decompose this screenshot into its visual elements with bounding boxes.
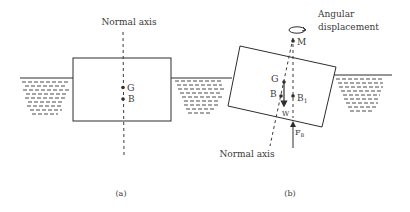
- label-b1: B1: [297, 93, 307, 104]
- normal-axis-label: Normal axis: [101, 17, 157, 27]
- center-of-buoyancy-point: [121, 97, 125, 101]
- original-buoyancy-point: [279, 94, 283, 98]
- shifted-buoyancy-point: [291, 94, 295, 98]
- rotation-arrow-icon: [289, 27, 306, 33]
- label-g-tilted: G: [271, 73, 279, 84]
- label-weight: W: [282, 110, 290, 118]
- panel-b: Angular displacement M G B B1 W FB Norma…: [219, 9, 392, 198]
- label-b1-sub: 1: [304, 97, 308, 104]
- caption-a: (a): [115, 189, 126, 198]
- label-buoyancy-sub: B: [301, 132, 305, 138]
- label-g: G: [127, 82, 135, 93]
- label-b-tilted: B: [270, 89, 277, 99]
- stability-diagram: G B Normal axis (a): [0, 0, 410, 212]
- water-hatch-right: [336, 79, 384, 111]
- metacenter-point: [291, 39, 295, 43]
- label-buoyancy: FB: [295, 128, 305, 138]
- center-of-gravity-point: [121, 86, 125, 90]
- tilted-normal-axis-label: Normal axis: [219, 149, 275, 159]
- angular-label-line1: Angular: [317, 9, 355, 19]
- label-m: M: [297, 37, 306, 47]
- caption-b: (b): [284, 189, 295, 198]
- floating-body-upright: [73, 58, 171, 121]
- normal-axis-line: [123, 32, 124, 155]
- panel-a: G B Normal axis (a): [20, 17, 232, 198]
- water-hatch-middle: [175, 81, 224, 113]
- water-hatch-left: [22, 82, 69, 114]
- center-of-gravity-point-tilted: [282, 80, 286, 84]
- label-b: B: [128, 94, 135, 104]
- angular-label-line2: displacement: [318, 22, 379, 32]
